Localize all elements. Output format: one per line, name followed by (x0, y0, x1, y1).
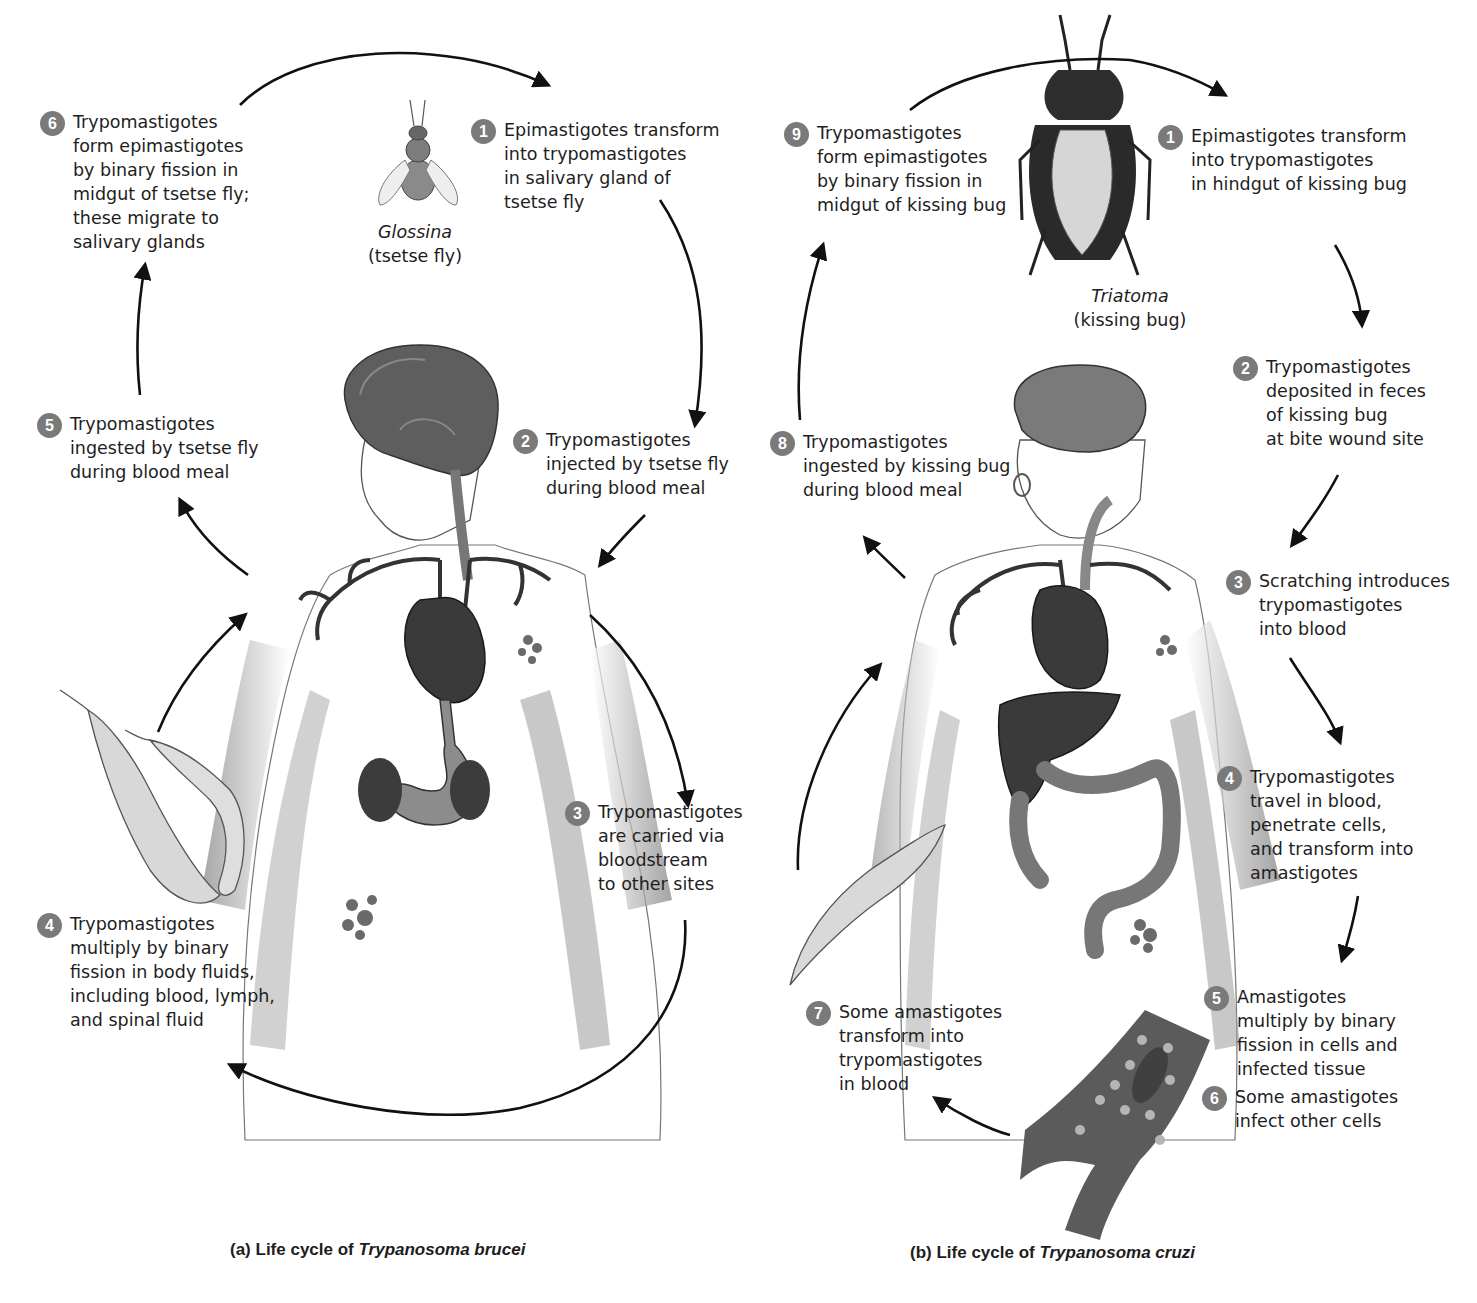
caption-species: Trypanosoma brucei (358, 1240, 525, 1259)
step-b-1: 1 Epimastigotes transform into trypomast… (1158, 124, 1407, 196)
arrow-1-to-2 (660, 200, 702, 425)
vector-common-name: (kissing bug) (1074, 310, 1187, 330)
caption-species: Trypanosoma cruzi (1039, 1243, 1195, 1262)
arrow-2-to-3 (1292, 475, 1338, 545)
step-a-5: 5 Trypomastigotes ingested by tsetse fly… (37, 412, 259, 484)
arrow-3-to-4 (1290, 658, 1340, 742)
arrow-5-to-6 (137, 265, 145, 395)
step-description: Epimastigotes transform into trypomastig… (504, 118, 720, 214)
step-description: Trypomastigotes form epimastigotes by bi… (73, 110, 249, 254)
caption-panel-a: (a) Life cycle of Trypanosoma brucei (230, 1240, 525, 1260)
step-number-badge: 3 (565, 801, 590, 826)
step-number-badge: 6 (40, 111, 65, 136)
step-b-2: 2 Trypomastigotes deposited in feces of … (1233, 355, 1426, 451)
vector-genus: Glossina (355, 220, 475, 244)
vector-label-tsetse: Glossina (tsetse fly) (355, 220, 475, 268)
brain (1014, 365, 1145, 452)
step-b-4: 4 Trypomastigotes travel in blood, penet… (1217, 765, 1413, 885)
step-description: Some amastigotes infect other cells (1235, 1085, 1398, 1133)
step-number-badge: 1 (1158, 125, 1183, 150)
kissing-bug-illustration (1020, 15, 1150, 275)
step-description: Some amastigotes transform into trypomas… (839, 1000, 1002, 1096)
kidney-left (358, 758, 402, 822)
step-number-badge: 3 (1226, 570, 1251, 595)
arrow-6-to-1 (240, 53, 548, 105)
step-number-badge: 5 (37, 413, 62, 438)
vector-genus: Triatoma (1065, 284, 1195, 308)
vector-label-kissing-bug: Triatoma (kissing bug) (1065, 284, 1195, 332)
step-b-8: 8 Trypomastigotes ingested by kissing bu… (770, 430, 1010, 502)
step-description: Trypomastigotes multiply by binary fissi… (70, 912, 275, 1032)
step-number-badge: 6 (1202, 1086, 1227, 1111)
arrow-4-to-5 (1342, 896, 1358, 960)
step-number-badge: 8 (770, 431, 795, 456)
arrow-4-to-body (158, 615, 245, 732)
panel-trypanosoma-brucei: Glossina (tsetse fly) 1 Epimastigotes tr… (0, 0, 760, 1303)
step-description: Trypomastigotes injected by tsetse fly d… (546, 428, 729, 500)
step-b-5: 5 Amastigotes multiply by binary fission… (1204, 985, 1398, 1081)
vector-common-name: (tsetse fly) (368, 246, 462, 266)
step-b-3: 3 Scratching introduces trypomastigotes … (1226, 569, 1450, 641)
step-number-badge: 2 (1233, 356, 1258, 381)
step-a-2: 2 Trypomastigotes injected by tsetse fly… (513, 428, 729, 500)
step-number-badge: 4 (37, 913, 62, 938)
head (1017, 440, 1145, 538)
step-b-9: 9 Trypomastigotes form epimastigotes by … (784, 121, 1006, 217)
arrow-1-to-2 (1335, 245, 1362, 325)
step-b-6: 6 Some amastigotes infect other cells (1202, 1085, 1398, 1133)
step-a-6: 6 Trypomastigotes form epimastigotes by … (40, 110, 249, 254)
caption-panel-b: (b) Life cycle of Trypanosoma cruzi (910, 1243, 1195, 1263)
arrow-7-to-body (798, 665, 880, 870)
step-number-badge: 2 (513, 429, 538, 454)
step-description: Trypomastigotes are carried via bloodstr… (598, 800, 743, 896)
step-description: Amastigotes multiply by binary fission i… (1237, 985, 1398, 1081)
arrow-to-8 (865, 538, 905, 578)
kidney-right (450, 760, 490, 820)
step-a-1: 1 Epimastigotes transform into trypomast… (471, 118, 720, 214)
caption-prefix: (a) Life cycle of (230, 1240, 358, 1259)
step-description: Scratching introduces trypomastigotes in… (1259, 569, 1450, 641)
step-number-badge: 4 (1217, 766, 1242, 791)
step-description: Trypomastigotes form epimastigotes by bi… (817, 121, 1006, 217)
caption-prefix: (b) Life cycle of (910, 1243, 1039, 1262)
step-description: Epimastigotes transform into trypomastig… (1191, 124, 1407, 196)
step-description: Trypomastigotes travel in blood, penetra… (1250, 765, 1413, 885)
step-description: Trypomastigotes ingested by tsetse fly d… (70, 412, 259, 484)
panel-trypanosoma-cruzi: Triatoma (kissing bug) 1 Epimastigotes t… (740, 0, 1477, 1303)
step-b-7: 7 Some amastigotes transform into trypom… (806, 1000, 1002, 1096)
step-number-badge: 7 (806, 1001, 831, 1026)
tsetse-fly-illustration (379, 100, 458, 205)
step-a-3: 3 Trypomastigotes are carried via bloods… (565, 800, 743, 896)
step-number-badge: 9 (784, 122, 809, 147)
step-number-badge: 5 (1204, 986, 1229, 1011)
step-description: Trypomastigotes ingested by kissing bug … (803, 430, 1010, 502)
arrow-to-5 (180, 500, 248, 575)
step-number-badge: 1 (471, 119, 496, 144)
arrow-2-to-inject (600, 515, 645, 565)
step-a-4: 4 Trypomastigotes multiply by binary fis… (37, 912, 275, 1032)
arrow-8-to-9 (799, 245, 823, 420)
step-description: Trypomastigotes deposited in feces of ki… (1266, 355, 1426, 451)
